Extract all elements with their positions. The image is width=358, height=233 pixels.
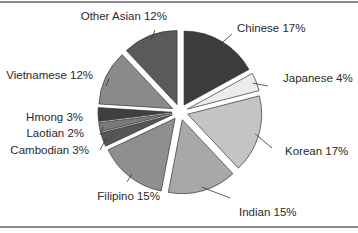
leader-line [255,134,272,148]
slice-label: Filipino 15% [97,190,160,202]
leader-line [220,34,232,45]
slice-label: Indian 15% [239,206,297,218]
pie-chart: Chinese 17%Japanese 4%Korean 17%Indian 1… [0,0,358,233]
leader-line [202,187,230,198]
slice-label: Japanese 4% [283,72,353,84]
slice-label: Chinese 17% [237,22,305,34]
slice-label: Vietnamese 12% [6,69,93,81]
slice-label: Korean 17% [285,145,348,157]
slice-label: Cambodian 3% [10,144,89,156]
slice-label: Laotian 2% [26,127,84,139]
slice-label: Other Asian 12% [81,10,167,22]
slice-label: Hmong 3% [26,111,83,123]
